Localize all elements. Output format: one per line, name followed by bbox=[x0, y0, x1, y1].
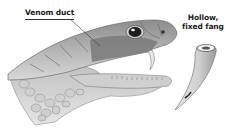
venom-duct-label: Venom duct bbox=[25, 9, 74, 20]
hollow-fang-illustration bbox=[175, 45, 216, 111]
hollow-fixed-fang-label: Hollow, fixed fang bbox=[182, 14, 224, 31]
fang-label-line-2: fixed fang bbox=[182, 23, 224, 32]
eye-icon bbox=[126, 26, 144, 39]
snake-lower-jaw bbox=[70, 74, 172, 89]
venom-gland bbox=[90, 36, 158, 62]
snake-fang bbox=[148, 50, 154, 70]
